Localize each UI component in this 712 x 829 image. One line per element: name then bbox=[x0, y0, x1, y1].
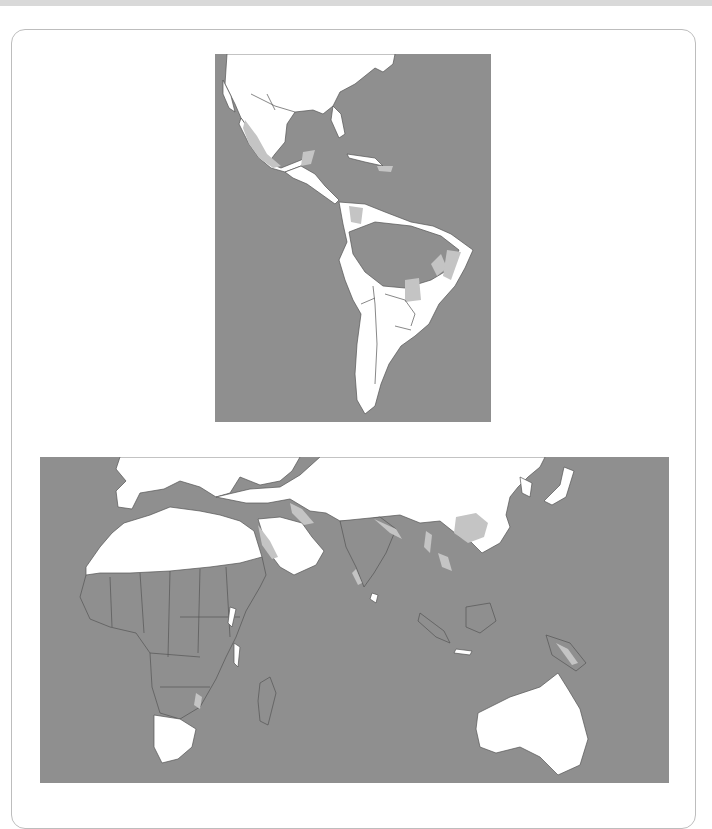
americas-map bbox=[215, 54, 491, 422]
hispaniola-shaded-region bbox=[377, 166, 393, 172]
yucatan-shaded-region bbox=[301, 150, 315, 166]
north-africa-landmass bbox=[86, 507, 262, 575]
indochina-shaded-region bbox=[438, 553, 452, 571]
zimbabwe-shaded-region bbox=[194, 693, 202, 709]
java-coast bbox=[454, 649, 472, 655]
africa-outline bbox=[80, 557, 266, 719]
top-strip bbox=[0, 0, 712, 6]
old-world-map bbox=[40, 457, 669, 783]
cuba bbox=[347, 154, 383, 166]
madagascar bbox=[258, 677, 276, 725]
australia bbox=[476, 673, 588, 775]
americas-map-graphic bbox=[215, 54, 491, 422]
florida bbox=[331, 106, 345, 138]
japan bbox=[544, 467, 574, 505]
central-america bbox=[285, 166, 339, 204]
venezuela-shaded-region bbox=[349, 206, 363, 224]
korea bbox=[520, 477, 532, 497]
myanmar-shaded-region bbox=[424, 531, 432, 553]
old-world-map-graphic bbox=[40, 457, 669, 783]
brazil-central-shaded-region bbox=[405, 278, 421, 302]
borneo bbox=[466, 603, 496, 633]
sumatra bbox=[418, 613, 450, 643]
sri-lanka bbox=[370, 593, 378, 603]
southern-africa bbox=[154, 715, 196, 763]
